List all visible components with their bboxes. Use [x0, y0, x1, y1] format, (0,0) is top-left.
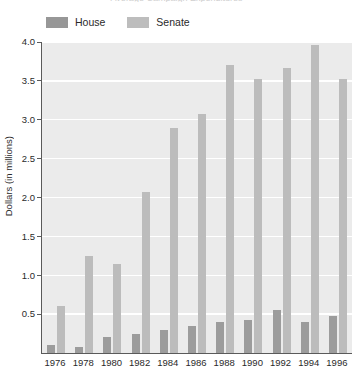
bar-house-1994	[301, 322, 309, 353]
bar-house-1988	[216, 322, 224, 353]
bar-senate-1994	[311, 45, 319, 353]
bar-senate-1986	[198, 114, 206, 353]
x-axis-label-1980: 1980	[101, 357, 122, 369]
x-axis-label-1992: 1992	[270, 357, 291, 369]
x-axis-label-1996: 1996	[326, 357, 347, 369]
bar-house-1992	[273, 310, 281, 353]
legend-label-house: House	[75, 17, 105, 28]
x-axis-label-1990: 1990	[242, 357, 263, 369]
x-axis-label-1976: 1976	[45, 357, 66, 369]
bar-house-1984	[160, 330, 168, 353]
chart-title: Average Campaign Expenditures	[0, 0, 353, 2]
y-axis-tick-label: 2.5	[22, 154, 35, 164]
bar-chart: Average Campaign Expenditures House Sena…	[0, 0, 353, 379]
y-axis-tick-label: 0.5	[22, 309, 35, 319]
legend-item-senate: Senate	[127, 17, 189, 28]
bar-house-1980	[103, 337, 111, 353]
bars-layer	[42, 42, 352, 353]
x-axis-labels: 1976197819801982198419861988199019921994…	[41, 357, 352, 373]
bar-house-1982	[132, 334, 140, 353]
y-axis-ticks: 0.51.01.52.02.53.03.54.0	[0, 42, 41, 353]
y-axis-tick-label: 1.0	[22, 271, 35, 281]
bar-senate-1990	[254, 79, 262, 353]
x-axis-label-1986: 1986	[185, 357, 206, 369]
bar-senate-1976	[57, 306, 65, 353]
bar-house-1986	[188, 326, 196, 353]
bar-house-1990	[244, 320, 252, 353]
y-axis-tick-label: 3.5	[22, 76, 35, 86]
legend-swatch-senate	[127, 17, 149, 28]
bar-senate-1984	[170, 128, 178, 353]
legend-label-senate: Senate	[156, 17, 189, 28]
bar-senate-1992	[283, 68, 291, 353]
y-axis-tick-label: 1.5	[22, 232, 35, 242]
bar-house-1978	[75, 347, 83, 353]
chart-legend: House Senate	[46, 14, 190, 30]
bar-senate-1980	[113, 264, 121, 353]
bar-senate-1988	[226, 65, 234, 353]
x-axis-label-1994: 1994	[298, 357, 319, 369]
bar-house-1996	[329, 316, 337, 353]
x-axis-label-1978: 1978	[73, 357, 94, 369]
plot-area	[41, 42, 352, 354]
y-axis-tick-label: 3.0	[22, 115, 35, 125]
bar-senate-1996	[339, 79, 347, 353]
y-axis-tick-label: 4.0	[22, 37, 35, 47]
bar-house-1976	[47, 345, 55, 353]
y-axis-tick-label: 2.0	[22, 193, 35, 203]
x-axis-label-1984: 1984	[157, 357, 178, 369]
x-axis-label-1982: 1982	[129, 357, 150, 369]
legend-item-house: House	[46, 17, 105, 28]
legend-swatch-house	[46, 17, 68, 28]
bar-senate-1982	[142, 192, 150, 353]
x-axis-label-1988: 1988	[214, 357, 235, 369]
bar-senate-1978	[85, 256, 93, 353]
